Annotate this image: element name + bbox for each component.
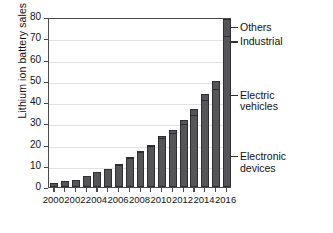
annotation-leader-line <box>231 95 238 96</box>
annotation-leader-line <box>231 41 238 42</box>
bar-segment <box>126 160 134 187</box>
bar-2016 <box>223 19 231 187</box>
x-axis-tick-mark <box>53 188 54 192</box>
x-axis-tick-label: 2000 <box>43 194 64 205</box>
x-axis-tick-mark <box>150 188 151 192</box>
bar-2008 <box>137 151 145 187</box>
annotation-label: Industrial <box>240 36 283 48</box>
bar-2000 <box>50 183 58 187</box>
bar-segment <box>115 166 123 187</box>
y-axis-tick-label: 0 <box>35 181 41 192</box>
x-axis-tick-label: 2014 <box>194 194 215 205</box>
bar-segment <box>223 121 231 187</box>
bar-segment <box>201 100 209 132</box>
x-axis-tick-mark <box>64 188 65 192</box>
y-axis-tick-label: 10 <box>30 160 41 171</box>
series-annotations: OthersIndustrialElectric vehiclesElectro… <box>231 0 333 233</box>
annotation-label: Electronic devices <box>240 151 286 174</box>
y-axis-tick-label: 50 <box>30 75 41 86</box>
lithium-battery-sales-chart: Lithium ion battery sales / GWh 01020304… <box>0 0 333 233</box>
bar-segment <box>169 143 177 187</box>
x-axis-tick-mark <box>215 188 216 192</box>
x-axis-tick-mark <box>75 188 76 192</box>
bar-segment <box>50 183 58 187</box>
bar-2012 <box>180 120 188 187</box>
bar-2005 <box>104 169 112 187</box>
bar-series-group <box>49 19 230 187</box>
bar-segment <box>147 150 155 187</box>
plot-area <box>48 18 231 188</box>
bar-segment <box>158 146 166 187</box>
y-axis-tick-label: 30 <box>30 117 41 128</box>
y-axis-tick-label: 40 <box>30 96 41 107</box>
annotation-electric-vehicles: Electric vehicles <box>231 90 278 113</box>
bar-segment <box>180 140 188 187</box>
bar-segment <box>212 81 220 90</box>
bar-segment <box>190 137 198 187</box>
bar-segment <box>190 115 198 137</box>
x-axis-tick-label: 2004 <box>86 194 107 205</box>
x-axis-tick-mark <box>107 188 108 192</box>
bar-segment <box>223 19 231 36</box>
x-axis-tick-mark <box>86 188 87 192</box>
bar-2006 <box>115 164 123 187</box>
bar-2002 <box>72 180 80 187</box>
x-axis-tick-label: 2008 <box>129 194 150 205</box>
annotation-label: Electric vehicles <box>240 90 278 113</box>
y-axis-tick-label: 70 <box>30 32 41 43</box>
x-axis-tick-label: 2002 <box>64 194 85 205</box>
bar-segment <box>104 169 112 187</box>
y-axis-ticks: 01020304050607080 <box>0 18 48 188</box>
x-axis-tick-mark <box>96 188 97 192</box>
bar-2001 <box>61 181 69 187</box>
bar-2014 <box>201 94 209 188</box>
bar-segment <box>93 172 101 187</box>
annotation-label: Others <box>240 22 272 34</box>
annotation-others: Others <box>231 22 272 34</box>
bar-segment <box>72 180 80 187</box>
y-axis-tick-label: 80 <box>30 11 41 22</box>
x-axis-tick-label: 2006 <box>107 194 128 205</box>
bar-2013 <box>190 109 198 187</box>
x-axis-tick-mark <box>226 188 227 192</box>
bar-segment <box>223 36 231 121</box>
x-axis-tick-mark <box>172 188 173 192</box>
bar-segment <box>212 130 220 187</box>
bar-2010 <box>158 136 166 187</box>
x-axis-tick-mark <box>140 188 141 192</box>
bar-segment <box>212 89 220 129</box>
x-axis-tick-mark <box>183 188 184 192</box>
x-axis-tick-mark <box>204 188 205 192</box>
bar-2011 <box>169 130 177 187</box>
bar-2003 <box>83 176 91 187</box>
bar-segment <box>158 138 166 145</box>
bar-2007 <box>126 157 134 187</box>
annotation-leader-line <box>231 156 238 157</box>
bar-segment <box>137 154 145 187</box>
x-axis-ticks: 200020022004200620082010201220142016 <box>48 188 231 214</box>
annotation-industrial: Industrial <box>231 36 283 48</box>
x-axis-tick-mark <box>161 188 162 192</box>
y-axis-tick-label: 20 <box>30 139 41 150</box>
x-axis-tick-label: 2012 <box>172 194 193 205</box>
bar-2015 <box>212 81 220 187</box>
bar-segment <box>169 133 177 144</box>
x-axis-tick-label: 2010 <box>150 194 171 205</box>
y-axis-tick-label: 60 <box>30 54 41 65</box>
bar-segment <box>180 124 188 140</box>
bar-2009 <box>147 145 155 188</box>
x-axis-tick-mark <box>193 188 194 192</box>
bar-2004 <box>93 172 101 187</box>
bar-segment <box>61 181 69 187</box>
x-axis-tick-mark <box>129 188 130 192</box>
x-axis-tick-mark <box>118 188 119 192</box>
bar-segment <box>201 132 209 187</box>
annotation-leader-line <box>231 27 238 28</box>
annotation-electronic-devices: Electronic devices <box>231 151 286 174</box>
bar-segment <box>83 176 91 187</box>
